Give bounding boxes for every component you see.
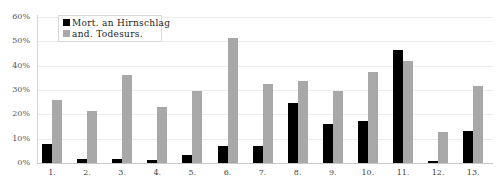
bar-mort-an-hirnschlag xyxy=(288,103,298,163)
y-tick-label: 20% xyxy=(0,109,30,119)
bar-mort-an-hirnschlag xyxy=(147,160,157,163)
bar-and-todesurs xyxy=(473,86,483,163)
x-tick-label: 13. xyxy=(458,168,488,177)
x-tick-label: 5. xyxy=(177,168,207,177)
x-tick-label: 9. xyxy=(318,168,348,177)
bar-mort-an-hirnschlag xyxy=(428,161,438,163)
x-tick-label: 2. xyxy=(72,168,102,177)
x-tick-label: 10. xyxy=(353,168,383,177)
bar-and-todesurs xyxy=(403,61,413,163)
x-tick-label: 11. xyxy=(388,168,418,177)
bar-mort-an-hirnschlag xyxy=(77,159,87,163)
bar-mort-an-hirnschlag xyxy=(182,155,192,163)
bar-mort-an-hirnschlag xyxy=(463,131,473,163)
bar-and-todesurs xyxy=(87,111,97,163)
bar-mort-an-hirnschlag xyxy=(253,146,263,163)
legend: Mort. an Hirnschlag and. Todesurs. xyxy=(58,15,162,42)
legend-item-and-todesurs: and. Todesurs. xyxy=(63,29,143,40)
legend-swatch-black xyxy=(63,19,70,26)
x-tick-label: 3. xyxy=(107,168,137,177)
bar-mort-an-hirnschlag xyxy=(218,146,228,163)
y-tick-label: 0% xyxy=(0,158,30,168)
bar-mort-an-hirnschlag xyxy=(112,159,122,163)
legend-swatch-gray xyxy=(63,30,70,37)
x-tick-label: 4. xyxy=(142,168,172,177)
bar-and-todesurs xyxy=(157,107,167,163)
legend-label: and. Todesurs. xyxy=(72,29,143,39)
bar-mort-an-hirnschlag xyxy=(393,50,403,163)
legend-item-mort-an-hirnschlag: Mort. an Hirnschlag xyxy=(63,18,170,29)
y-tick-label: 30% xyxy=(0,85,30,95)
bar-and-todesurs xyxy=(228,38,238,163)
bar-and-todesurs xyxy=(438,132,448,163)
bar-and-todesurs xyxy=(298,81,308,163)
bar-and-todesurs xyxy=(263,84,273,163)
bar-and-todesurs xyxy=(52,100,62,163)
y-tick-label: 60% xyxy=(0,12,30,22)
y-tick-label: 50% xyxy=(0,36,30,46)
x-tick-label: 7. xyxy=(248,168,278,177)
bar-and-todesurs xyxy=(368,72,378,163)
x-tick-label: 12. xyxy=(423,168,453,177)
legend-label: Mort. an Hirnschlag xyxy=(72,18,170,28)
x-tick-label: 8. xyxy=(283,168,313,177)
bar-chart: 0%10%20%30%40%50%60% 1.2.3.4.5.6.7.8.9.1… xyxy=(0,0,497,187)
bar-and-todesurs xyxy=(192,91,202,163)
bar-and-todesurs xyxy=(333,91,343,163)
y-tick-label: 40% xyxy=(0,61,30,71)
x-tick-label: 1. xyxy=(37,168,67,177)
bar-mort-an-hirnschlag xyxy=(42,144,52,163)
x-tick-label: 6. xyxy=(213,168,243,177)
y-tick-label: 10% xyxy=(0,134,30,144)
bar-and-todesurs xyxy=(122,75,132,163)
x-axis xyxy=(37,163,493,164)
bar-mort-an-hirnschlag xyxy=(323,124,333,163)
gridline xyxy=(38,66,493,67)
bar-mort-an-hirnschlag xyxy=(358,121,368,163)
